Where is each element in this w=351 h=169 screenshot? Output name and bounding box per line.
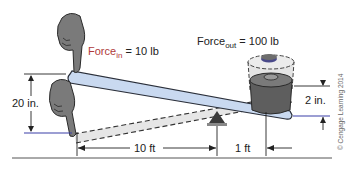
output-travel-label: 2 in.: [305, 94, 326, 106]
copyright-text: © Cengage Learning 2014: [337, 73, 345, 150]
hand-upper-icon: [57, 13, 84, 72]
input-travel-label: 20 in.: [12, 97, 39, 109]
force-in-label: Forcein = 10 lb: [88, 45, 159, 60]
load-arm-dimension: [267, 145, 292, 151]
lever-diagram: 20 in. 2 in. 10 ft 1 ft Forcein = 10 lb …: [0, 0, 351, 169]
weight-icon: [250, 73, 292, 114]
force-out-label: Forceout = 100 lb: [197, 35, 279, 50]
hand-lower-icon: [49, 79, 76, 136]
effort-arm-label: 10 ft: [134, 142, 155, 154]
load-arm-label: 1 ft: [235, 142, 250, 154]
